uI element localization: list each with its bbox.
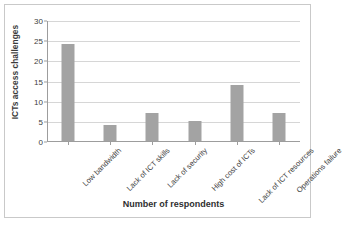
bar <box>146 113 159 141</box>
bar-slot <box>258 21 300 142</box>
x-tick-mark <box>195 142 196 145</box>
bar <box>272 113 285 141</box>
bar-series <box>47 21 300 142</box>
bar <box>188 121 201 141</box>
x-tick-mark <box>237 142 238 145</box>
plot-area: 051015202530 <box>47 21 300 142</box>
y-tick-label: 20 <box>34 57 43 66</box>
y-tick-label: 5 <box>39 117 43 126</box>
x-tick-mark <box>279 142 280 145</box>
bar <box>62 44 75 141</box>
bar <box>230 85 243 141</box>
bar-slot <box>89 21 131 142</box>
x-tick-mark <box>152 142 153 145</box>
y-tick-label: 15 <box>34 77 43 86</box>
x-tick-mark <box>68 142 69 145</box>
bar-slot <box>131 21 173 142</box>
y-axis-title: ICTs access challenges <box>10 7 20 137</box>
y-tick-label: 0 <box>39 138 43 147</box>
y-tick-label: 30 <box>34 17 43 26</box>
y-tick-label: 10 <box>34 97 43 106</box>
bar <box>104 125 117 141</box>
bar-slot <box>174 21 216 142</box>
x-tick-mark <box>110 142 111 145</box>
y-tick-label: 25 <box>34 37 43 46</box>
x-axis-title: Number of respondents <box>47 199 300 209</box>
bar-slot <box>47 21 89 142</box>
bar-slot <box>216 21 258 142</box>
